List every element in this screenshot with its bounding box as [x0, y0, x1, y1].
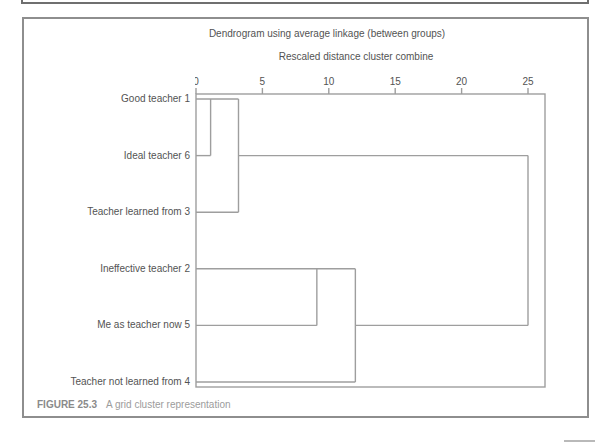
- leaf-label: Teacher not learned from 4: [24, 375, 190, 389]
- axis-tick-label: 20: [456, 76, 468, 87]
- leaf-label: Ideal teacher 6: [24, 149, 190, 163]
- figure-caption-number: FIGURE 25.3: [37, 399, 97, 410]
- dendrogram-canvas: 0510152025: [195, 74, 547, 394]
- axis-tick-label: 10: [323, 76, 335, 87]
- axis-title: Rescaled distance cluster combine: [279, 51, 434, 62]
- figure-caption: FIGURE 25.3A grid cluster representation: [37, 399, 231, 410]
- axis-tick-label: 25: [522, 76, 534, 87]
- page: Dendrogram using average linkage (betwee…: [0, 0, 608, 444]
- chart-title: Dendrogram using average linkage (betwee…: [209, 28, 445, 39]
- axis-tick-label: 15: [390, 76, 402, 87]
- figure-caption-text: A grid cluster representation: [106, 399, 231, 410]
- previous-content-box-edge: [21, 0, 589, 4]
- leaf-label: Teacher learned from 3: [24, 205, 190, 219]
- leaf-label: Me as teacher now 5: [24, 318, 190, 332]
- axis-tick-label: 5: [260, 76, 266, 87]
- leaf-label: Good teacher 1: [24, 92, 190, 106]
- leaf-label: Ineffective teacher 2: [24, 262, 190, 276]
- figure-panel: Dendrogram using average linkage (betwee…: [22, 17, 589, 418]
- axis-tick-label: 0: [195, 76, 199, 87]
- next-content-box-edge: [564, 440, 595, 442]
- plot-frame: [196, 94, 545, 387]
